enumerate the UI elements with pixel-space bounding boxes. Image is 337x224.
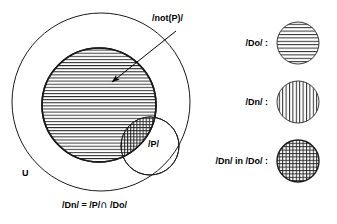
equation-caption: /Dn/ = /P/∩ /Do/ (62, 200, 127, 210)
label-not-p: /not(P)/ (152, 14, 183, 23)
legend-swatch-do (277, 22, 319, 64)
figure-canvas: /not(P)/ /P/ U /Dn/ = /P/∩ /Do/ /Do/ : /… (0, 0, 337, 224)
legend-swatch-dn-in-do (277, 140, 319, 182)
label-p: /P/ (148, 140, 159, 149)
legend-swatch-dn (277, 81, 319, 123)
label-universe: U (22, 169, 29, 178)
set-diagram-svg (0, 0, 337, 224)
equation-rhs: /Do/ (110, 200, 127, 210)
intersection-operator-icon: ∩ (100, 199, 107, 210)
equation-lhs: /Dn/ = /P/ (62, 200, 100, 210)
legend-label-do: /Do/ : (180, 39, 268, 48)
legend-label-dn: /Dn/ : (180, 98, 268, 107)
legend-label-dn-in-do: /Dn/ in /Do/ : (150, 157, 268, 166)
